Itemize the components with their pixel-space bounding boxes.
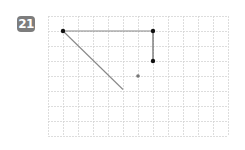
point-dot (136, 74, 140, 78)
line-segment (63, 31, 123, 90)
figure-segments (63, 31, 153, 90)
dot-grid-diagram (0, 0, 245, 150)
figure-points (61, 29, 155, 78)
point-dot (61, 29, 65, 33)
point-dot (151, 29, 155, 33)
point-dot (151, 59, 155, 63)
